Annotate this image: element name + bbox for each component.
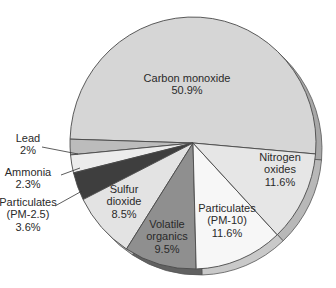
slice-label-lead: Lead2% xyxy=(16,132,40,157)
pie-chart: Carbon monoxide50.9%Lead2%Ammonia2.3%Par… xyxy=(0,0,336,288)
callout-line-particulates-pm-2-5 xyxy=(55,191,82,206)
slice-name-label: Lead xyxy=(16,132,40,144)
slice-value-label: 3.6% xyxy=(15,221,40,233)
slice-label-nitrogen-oxides: Nitrogenoxides11.6% xyxy=(259,151,301,188)
slice-name-label: (PM-10) xyxy=(207,214,247,226)
slice-name-label: Particulates xyxy=(0,196,57,208)
slice-value-label: 8.5% xyxy=(111,208,136,220)
slice-name-label: Volatile xyxy=(149,218,184,230)
slice-name-label: Ammonia xyxy=(5,166,52,178)
slice-value-label: 2% xyxy=(20,144,36,156)
slice-name-label: organics xyxy=(146,230,188,242)
slice-value-label: 9.5% xyxy=(154,243,179,255)
slice-name-label: Particulates xyxy=(198,202,256,214)
slice-name-label: Carbon monoxide xyxy=(144,72,231,84)
slice-name-label: (PM-2.5) xyxy=(7,208,50,220)
slice-label-ammonia: Ammonia2.3% xyxy=(5,166,52,191)
slice-label-particulates-pm-2-5: Particulates(PM-2.5)3.6% xyxy=(0,196,57,233)
slice-name-label: oxides xyxy=(264,163,296,175)
pie-slices xyxy=(70,17,316,269)
slice-value-label: 2.3% xyxy=(15,178,40,190)
slice-name-label: dioxide xyxy=(107,195,142,207)
slice-value-label: 11.6% xyxy=(212,227,243,239)
slice-value-label: 11.6% xyxy=(265,176,296,188)
slice-name-label: Sulfur xyxy=(110,183,139,195)
slice-value-label: 50.9% xyxy=(171,84,202,96)
slice-name-label: Nitrogen xyxy=(259,151,301,163)
slice-label-sulfur-dioxide: Sulfurdioxide8.5% xyxy=(107,183,142,220)
